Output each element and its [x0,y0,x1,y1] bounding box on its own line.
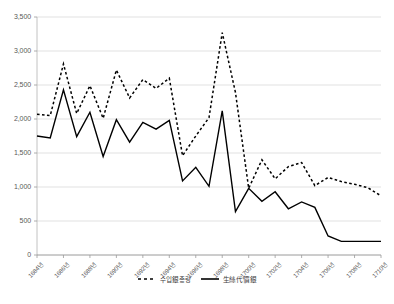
legend-entry-imported-silver[interactable]: 수입銀총량 [137,274,190,284]
y-tick-label: 1,500 [0,149,31,156]
gridlines [37,17,381,221]
y-tick-label: 2,500 [0,81,31,88]
chart-container: 05001,0001,5002,0002,5003,0003,500 1684년… [0,0,394,304]
axis-lines [37,17,381,255]
y-tick-label: 0 [0,251,31,258]
legend-swatch-dashed-icon [137,276,157,282]
y-tick-marks [34,17,37,255]
y-tick-label: 3,500 [0,13,31,20]
legend-label-raw-silk-price: 生絲代價銀 [223,274,257,284]
data-series-layer [37,33,381,242]
y-tick-label: 2,000 [0,115,31,122]
series-line-raw-silk-price [37,90,381,242]
x-tick-marks [37,255,381,258]
legend-swatch-solid-icon [200,276,220,282]
y-tick-label: 3,000 [0,47,31,54]
y-tick-label: 1,000 [0,183,31,190]
chart-plot-area [0,0,394,304]
legend-entry-raw-silk-price[interactable]: 生絲代價銀 [200,274,257,284]
chart-legend: 수입銀총량 生絲代價銀 [0,274,394,284]
y-tick-label: 500 [0,217,31,224]
legend-label-imported-silver: 수입銀총량 [160,274,190,284]
